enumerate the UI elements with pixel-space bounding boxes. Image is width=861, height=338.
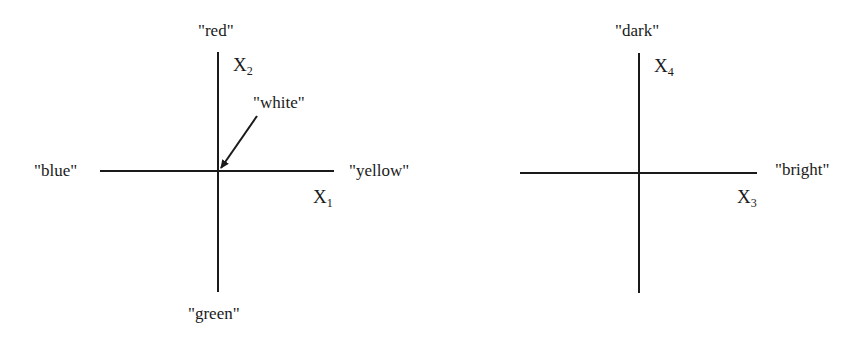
label-red: "red" (198, 22, 234, 39)
axis-name-x3: X3 (737, 187, 757, 209)
label-bright: "bright" (775, 161, 830, 178)
label-dark: "dark" (615, 22, 659, 39)
label-blue: "blue" (34, 162, 77, 179)
axis-name-x4: X4 (654, 56, 674, 78)
label-green: "green" (188, 305, 240, 322)
axis-name-x1: X1 (313, 187, 333, 209)
white-origin-arrow (221, 116, 257, 168)
label-yellow: "yellow" (349, 162, 409, 179)
axis-name-x2: X2 (233, 55, 253, 77)
brightness-axes-panel: "dark" X4 "bright" X3 (430, 0, 861, 338)
color-axes-panel: "red" X2 "white" "blue" "yellow" X1 "gre… (0, 0, 430, 338)
label-white: "white" (253, 94, 305, 111)
